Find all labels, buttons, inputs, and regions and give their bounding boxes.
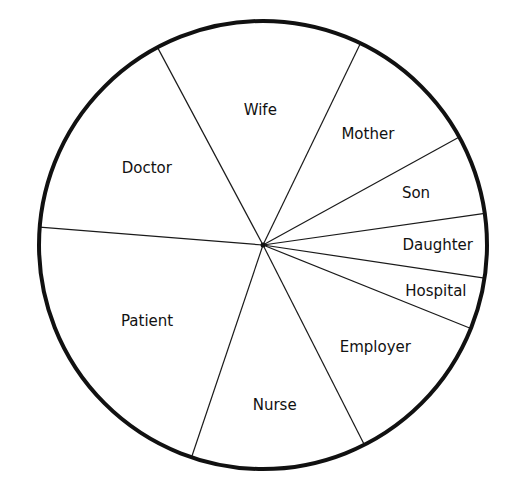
slice-label-hospital: Hospital <box>405 282 466 300</box>
slice-divider <box>192 245 263 457</box>
slice-labels: WifeMotherSonDaughterHospitalEmployerNur… <box>121 101 474 414</box>
slice-label-nurse: Nurse <box>253 396 297 414</box>
slice-label-wife: Wife <box>244 101 277 119</box>
slice-divider <box>40 227 263 245</box>
pie-center <box>261 243 266 248</box>
pie-chart: WifeMotherSonDaughterHospitalEmployerNur… <box>0 0 522 493</box>
slice-label-son: Son <box>402 184 430 202</box>
slice-label-employer: Employer <box>340 338 412 356</box>
slice-label-daughter: Daughter <box>402 236 473 254</box>
slice-divider <box>263 43 360 245</box>
slice-label-doctor: Doctor <box>122 159 173 177</box>
slice-label-patient: Patient <box>121 312 173 330</box>
slice-label-mother: Mother <box>341 125 395 143</box>
slice-divider <box>157 47 263 245</box>
